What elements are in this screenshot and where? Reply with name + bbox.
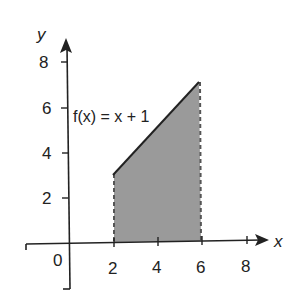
y-tick-label: 6 [42,99,51,118]
y-axis-arrow-icon [60,38,72,53]
area-under-curve-chart: 2 4 6 8 8 6 4 2 0 y x f(x) = x + 1 [0,0,293,298]
shaded-region [114,82,201,242]
y-axis-label: y [36,25,47,44]
x-tick-label: 8 [241,257,250,276]
origin-label: 0 [53,251,62,270]
x-tick-label: 2 [108,259,117,278]
right-boundary-dashed [200,82,201,242]
x-tick-label: 4 [152,258,161,277]
x-tick-label: 6 [196,258,205,277]
function-label: f(x) = x + 1 [73,108,150,125]
y-tick-label: 4 [42,144,51,163]
y-tick-label: 8 [39,53,48,72]
y-tick-label: 2 [42,189,51,208]
x-axis-label: x [273,232,283,251]
